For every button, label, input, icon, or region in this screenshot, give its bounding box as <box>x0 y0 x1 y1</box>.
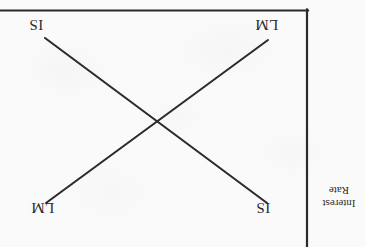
is-lm-figure: IS LM LM IS Interest Rate <box>0 0 365 247</box>
diagram-canvas <box>0 0 365 247</box>
axis-label-line-1: Interest <box>316 196 362 209</box>
is-curve-label-top-left: IS <box>29 17 43 32</box>
interest-rate-axis-label: Interest Rate <box>316 183 362 210</box>
lm-curve-label-top-right: LM <box>255 17 278 32</box>
lm-curve-label-bottom-left: LM <box>31 200 54 215</box>
axis-label-line-2: Rate <box>316 183 362 196</box>
is-curve-label-bottom-right: IS <box>256 200 270 215</box>
